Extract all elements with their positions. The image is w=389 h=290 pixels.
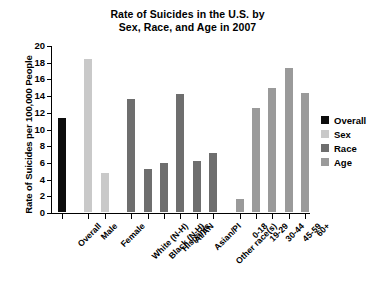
bar-60 [301, 93, 309, 212]
y-tick-label: 18 [29, 57, 45, 68]
y-tick-mark [47, 196, 52, 197]
y-tick-mark [47, 79, 52, 80]
legend-swatch-icon [321, 144, 329, 152]
y-tick-mark [47, 163, 52, 164]
legend-item-race: Race [321, 141, 387, 155]
bar-hispanic [160, 163, 168, 212]
chart-title: Rate of Suicides in the U.S. by Sex, Rac… [55, 8, 320, 34]
legend-item-age: Age [321, 155, 387, 169]
legend-item-sex: Sex [321, 127, 387, 141]
y-tick-label: 16 [29, 73, 45, 84]
bar-female [101, 173, 109, 212]
x-label-asian-pi: Asian/PI [212, 221, 243, 252]
y-tick-label: 12 [29, 107, 45, 118]
y-tick-mark [47, 180, 52, 181]
legend-label: Age [334, 157, 352, 168]
y-tick-label: 20 [29, 40, 45, 51]
legend-item-overall: Overall [321, 113, 387, 127]
bar-male [84, 59, 92, 212]
y-tick-label: 2 [29, 190, 45, 201]
x-label-male: Male [99, 221, 120, 242]
chart-title-line-2: Sex, Race, and Age in 2007 [55, 21, 320, 34]
legend-swatch-icon [321, 116, 329, 124]
y-tick-label: 10 [29, 124, 45, 135]
legend-label: Race [334, 143, 357, 154]
bar-0-18 [236, 199, 244, 212]
bar-black-n-h [144, 169, 152, 212]
bar-overall [58, 118, 66, 212]
legend-label: Sex [334, 129, 351, 140]
y-tick-mark [47, 46, 52, 47]
bar-other-race-s [209, 153, 217, 212]
y-tick-mark [47, 130, 52, 131]
bar-ai-an [176, 94, 184, 212]
plot-area: 20181614121086420 [51, 46, 310, 213]
legend-swatch-icon [321, 158, 329, 166]
chart-legend: OverallSexRaceAge [321, 113, 387, 169]
x-axis-labels: OverallMaleFemaleWhite (N-H)Black (N-H)H… [51, 213, 351, 290]
y-tick-label: 14 [29, 90, 45, 101]
y-tick-mark [47, 113, 52, 114]
bar-asian-pi [193, 161, 201, 212]
bar-19-29 [252, 108, 260, 212]
y-tick-label: 6 [29, 157, 45, 168]
chart-title-line-1: Rate of Suicides in the U.S. by [55, 8, 320, 21]
y-tick-mark [47, 63, 52, 64]
y-tick-label: 8 [29, 140, 45, 151]
bar-30-44 [268, 88, 276, 212]
bar-45-59 [285, 68, 293, 212]
legend-swatch-icon [321, 130, 329, 138]
y-tick-mark [47, 146, 52, 147]
legend-label: Overall [334, 115, 366, 126]
y-tick-label: 4 [29, 174, 45, 185]
x-label-female: Female [118, 221, 146, 249]
y-tick-mark [47, 96, 52, 97]
y-tick-label: 0 [29, 207, 45, 218]
bar-white-n-h [127, 99, 135, 212]
suicide-rate-bar-chart: Rate of Suicides in the U.S. by Sex, Rac… [0, 0, 389, 290]
